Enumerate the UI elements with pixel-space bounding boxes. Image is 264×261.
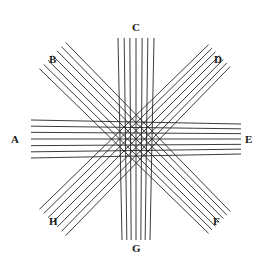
diagram-background: [0, 0, 264, 261]
endpoint-label-h: H: [49, 216, 58, 227]
line-bundle-diagram: A B C D E F G H: [0, 0, 264, 261]
endpoint-label-b: B: [49, 54, 56, 65]
endpoint-label-f: F: [213, 216, 220, 227]
endpoint-label-e: E: [245, 134, 252, 145]
endpoint-label-g: G: [132, 243, 141, 254]
endpoint-label-c: C: [132, 22, 140, 33]
endpoint-label-d: D: [214, 54, 222, 65]
endpoint-label-a: A: [11, 134, 19, 145]
diagram-canvas: [0, 0, 264, 261]
